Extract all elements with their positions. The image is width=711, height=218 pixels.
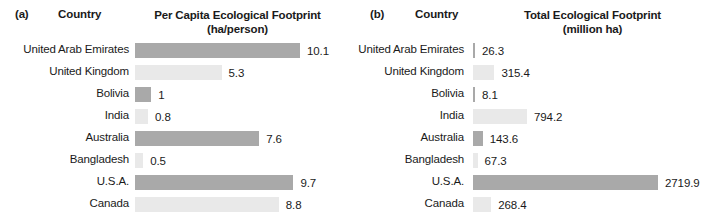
row-country-label: United Arab Emirates — [355, 43, 464, 55]
chart-row: United Kingdom5.3 — [0, 62, 352, 84]
bar — [473, 43, 475, 58]
panel-a-header: (a) Country Per Capita Ecological Footpr… — [0, 0, 352, 36]
bar — [473, 65, 494, 80]
bar — [135, 65, 222, 80]
bar-track: 2719.9 — [473, 175, 707, 190]
bar-track: 7.6 — [135, 131, 348, 146]
bar-track: 5.3 — [135, 65, 348, 80]
panel-a-metric-title: Per Capita Ecological Footprint — [154, 9, 321, 21]
chart-row: India0.8 — [0, 106, 352, 128]
bar-track: 67.3 — [473, 153, 707, 168]
bar-value-label: 0.5 — [150, 155, 166, 167]
panel-per-capita: (a) Country Per Capita Ecological Footpr… — [0, 0, 352, 218]
chart-row: Australia143.6 — [355, 128, 711, 150]
chart-row: Bolivia1 — [0, 84, 352, 106]
bar-value-label: 26.3 — [482, 45, 504, 57]
bar-track: 8.1 — [473, 87, 707, 102]
chart-row: Australia7.6 — [0, 128, 352, 150]
bar-track: 1 — [135, 87, 348, 102]
bar-value-label: 67.3 — [485, 155, 507, 167]
bar-value-label: 2719.9 — [665, 177, 700, 189]
chart-row: United Arab Emirates10.1 — [0, 40, 352, 62]
chart-row: Canada8.8 — [0, 194, 352, 216]
row-country-label: United Kingdom — [0, 65, 129, 77]
bar-value-label: 10.1 — [307, 45, 329, 57]
panel-a-tag: (a) — [15, 8, 28, 20]
row-country-label: Bolivia — [355, 87, 464, 99]
row-country-label: Canada — [355, 197, 464, 209]
ecological-footprint-figure: (a) Country Per Capita Ecological Footpr… — [0, 0, 711, 218]
bar-track: 8.8 — [135, 197, 348, 212]
panel-total: (b) Country Total Ecological Footprint (… — [355, 0, 711, 218]
bar — [473, 153, 478, 168]
bar-track: 794.2 — [473, 109, 707, 124]
chart-row: Canada268.4 — [355, 194, 711, 216]
row-country-label: United Arab Emirates — [0, 43, 129, 55]
row-country-label: India — [355, 109, 464, 121]
bar-track: 26.3 — [473, 43, 707, 58]
panel-a-metric-header: Per Capita Ecological Footprint (ha/pers… — [130, 8, 345, 36]
bar-value-label: 8.1 — [482, 89, 498, 101]
chart-row: U.S.A.2719.9 — [355, 172, 711, 194]
panel-b-metric-header: Total Ecological Footprint (million ha) — [485, 8, 700, 36]
panel-b-tag: (b) — [370, 8, 384, 20]
bar — [473, 175, 658, 190]
row-country-label: Bangladesh — [0, 153, 129, 165]
chart-row: Bangladesh0.5 — [0, 150, 352, 172]
bar-value-label: 9.7 — [300, 177, 316, 189]
panel-a-rows: United Arab Emirates10.1United Kingdom5.… — [0, 40, 352, 216]
bar-value-label: 1 — [158, 89, 164, 101]
bar — [135, 109, 148, 124]
panel-b-metric-unit: (million ha) — [485, 22, 700, 36]
bar-track: 9.7 — [135, 175, 348, 190]
bar — [473, 131, 483, 146]
bar — [473, 109, 527, 124]
bar — [135, 43, 300, 58]
bar-track: 10.1 — [135, 43, 348, 58]
bar — [135, 175, 293, 190]
panel-b-metric-title: Total Ecological Footprint — [524, 9, 661, 21]
bar-value-label: 143.6 — [490, 133, 518, 145]
row-country-label: U.S.A. — [355, 175, 464, 187]
row-country-label: U.S.A. — [0, 175, 129, 187]
chart-row: United Arab Emirates26.3 — [355, 40, 711, 62]
chart-row: U.S.A.9.7 — [0, 172, 352, 194]
bar-track: 0.8 — [135, 109, 348, 124]
row-country-label: India — [0, 109, 129, 121]
bar — [473, 197, 491, 212]
bar-track: 143.6 — [473, 131, 707, 146]
row-country-label: United Kingdom — [355, 65, 464, 77]
bar-value-label: 315.4 — [501, 67, 529, 79]
bar — [135, 87, 151, 102]
bar — [135, 131, 259, 146]
bar-track: 315.4 — [473, 65, 707, 80]
bar — [135, 153, 143, 168]
row-country-label: Canada — [0, 197, 129, 209]
row-country-label: Bangladesh — [355, 153, 464, 165]
bar-value-label: 268.4 — [498, 199, 526, 211]
chart-row: Bolivia8.1 — [355, 84, 711, 106]
row-country-label: Bolivia — [0, 87, 129, 99]
panel-a-metric-unit: (ha/person) — [130, 22, 345, 36]
bar-track: 268.4 — [473, 197, 707, 212]
chart-row: United Kingdom315.4 — [355, 62, 711, 84]
panel-b-country-header: Country — [415, 8, 458, 20]
bar-value-label: 794.2 — [534, 111, 562, 123]
bar-value-label: 7.6 — [266, 133, 282, 145]
chart-row: India794.2 — [355, 106, 711, 128]
bar-track: 0.5 — [135, 153, 348, 168]
bar-value-label: 0.8 — [155, 111, 171, 123]
panel-b-rows: United Arab Emirates26.3United Kingdom31… — [355, 40, 711, 216]
bar-value-label: 8.8 — [286, 199, 302, 211]
row-country-label: Australia — [0, 131, 129, 143]
bar — [473, 87, 475, 102]
row-country-label: Australia — [355, 131, 464, 143]
panel-b-header: (b) Country Total Ecological Footprint (… — [355, 0, 711, 36]
panel-a-country-header: Country — [58, 8, 101, 20]
bar-value-label: 5.3 — [229, 67, 245, 79]
chart-row: Bangladesh67.3 — [355, 150, 711, 172]
bar — [135, 197, 279, 212]
